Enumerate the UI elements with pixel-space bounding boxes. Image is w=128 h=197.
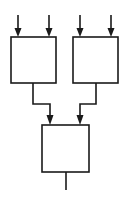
left-block xyxy=(11,37,56,83)
left-to-bottom-connector xyxy=(33,83,54,125)
right-block-input-arrow-1 xyxy=(77,15,84,37)
combiner-diagram xyxy=(0,0,128,197)
left-block-input-arrow-1 xyxy=(15,15,22,37)
right-block-input-arrow-2 xyxy=(108,15,115,37)
left-block-input-arrow-2 xyxy=(46,15,53,37)
bottom-block xyxy=(42,125,89,172)
right-block xyxy=(73,37,118,83)
right-to-bottom-connector xyxy=(77,83,97,125)
